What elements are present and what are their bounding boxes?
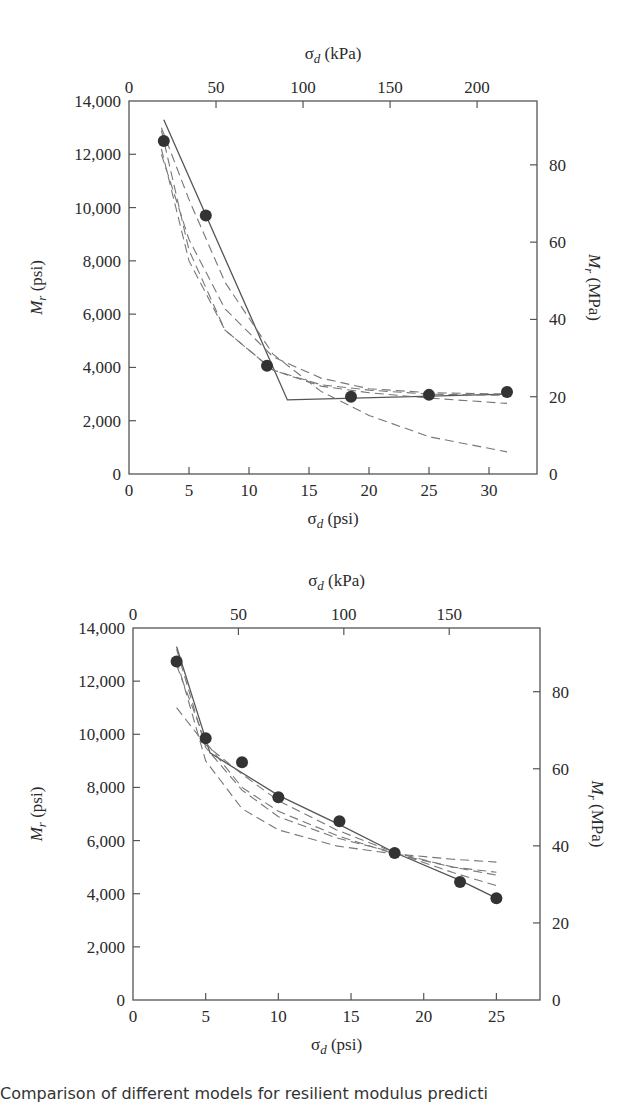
y-tick-label: 10,000 [74, 199, 121, 218]
x2-tick-label: 200 [464, 78, 490, 97]
y2-tick-label: 20 [549, 388, 566, 407]
plot-frame [133, 628, 540, 1000]
figure-caption: Comparison of different models for resil… [0, 1084, 631, 1103]
x-tick-label: 10 [241, 481, 258, 500]
model-curve-model-c [161, 128, 507, 452]
data-point [200, 210, 212, 222]
x-tick-label: 0 [125, 481, 134, 500]
data-point [158, 135, 170, 147]
x-tick-label: 25 [488, 1007, 505, 1026]
y-tick-label: 2,000 [87, 938, 125, 957]
data-point [423, 389, 435, 401]
y-tick-label: 14,000 [74, 92, 121, 111]
data-point [272, 791, 284, 803]
model-curve-bilinear-model [177, 647, 497, 899]
x2-tick-label: 150 [436, 605, 462, 624]
y-tick-label: 8,000 [83, 252, 121, 271]
y-axis-title: Mr (psi) [27, 260, 49, 316]
y-axis-title: Mr (psi) [27, 787, 49, 843]
chart-bottom: 051015202505010015002,0004,0006,0008,000… [27, 571, 607, 1057]
y-tick-label: 0 [117, 991, 126, 1010]
x2-axis-title: σd (kPa) [308, 571, 365, 593]
x-tick-label: 5 [201, 1007, 210, 1026]
data-point [171, 655, 183, 667]
data-point [501, 386, 513, 398]
data-point [389, 847, 401, 859]
x2-tick-label: 100 [290, 78, 316, 97]
y2-tick-label: 80 [549, 156, 566, 175]
data-point [333, 815, 345, 827]
data-point [345, 391, 357, 403]
x2-axis-title: σd (kPa) [305, 44, 362, 66]
y2-tick-label: 40 [552, 837, 569, 856]
y2-tick-label: 20 [552, 914, 569, 933]
y-tick-label: 14,000 [78, 619, 125, 638]
y-tick-label: 4,000 [87, 885, 125, 904]
y-tick-label: 4,000 [83, 358, 121, 377]
x-tick-label: 15 [343, 1007, 360, 1026]
x2-tick-label: 150 [377, 78, 403, 97]
x2-tick-label: 50 [208, 78, 225, 97]
model-curve-model-a [161, 130, 507, 403]
y-tick-label: 12,000 [78, 672, 125, 691]
x2-tick-label: 0 [129, 605, 138, 624]
y-tick-label: 6,000 [83, 305, 121, 324]
y-tick-label: 12,000 [74, 145, 121, 164]
y-tick-label: 2,000 [83, 412, 121, 431]
x-tick-label: 30 [481, 481, 498, 500]
x-tick-label: 5 [185, 481, 194, 500]
x2-tick-label: 50 [230, 605, 247, 624]
x-tick-label: 0 [129, 1007, 138, 1026]
y-tick-label: 10,000 [78, 725, 125, 744]
x-tick-label: 10 [270, 1007, 287, 1026]
y-tick-label: 6,000 [87, 832, 125, 851]
x2-tick-label: 100 [331, 605, 357, 624]
data-point [490, 892, 502, 904]
data-point [261, 360, 273, 372]
y2-tick-label: 60 [549, 233, 566, 252]
y2-tick-label: 80 [552, 683, 569, 702]
y2-tick-label: 60 [552, 760, 569, 779]
y2-axis-title: Mr (MPa) [582, 253, 604, 321]
chart-top: 05101520253005010015020002,0004,0006,000… [27, 44, 604, 531]
x-tick-label: 20 [415, 1007, 432, 1026]
x-axis-title: σd (psi) [307, 509, 358, 531]
y2-tick-label: 0 [552, 991, 561, 1010]
model-curve-model-b [161, 154, 507, 394]
y2-tick-label: 40 [549, 310, 566, 329]
model-curve-model-d [177, 665, 497, 872]
plot-frame [129, 101, 537, 474]
data-point [454, 876, 466, 888]
data-point [236, 756, 248, 768]
x-axis-title: σd (psi) [311, 1035, 362, 1057]
model-curve-model-c [177, 660, 497, 862]
x-tick-label: 25 [421, 481, 438, 500]
x2-tick-label: 0 [125, 78, 134, 97]
model-curve-model-d [161, 149, 507, 395]
y-tick-label: 0 [113, 465, 122, 484]
y-tick-label: 8,000 [87, 778, 125, 797]
y2-tick-label: 0 [549, 465, 558, 484]
x-tick-label: 20 [361, 481, 378, 500]
y2-axis-title: Mr (MPa) [585, 780, 607, 848]
x-tick-label: 15 [301, 481, 318, 500]
data-point [200, 732, 212, 744]
